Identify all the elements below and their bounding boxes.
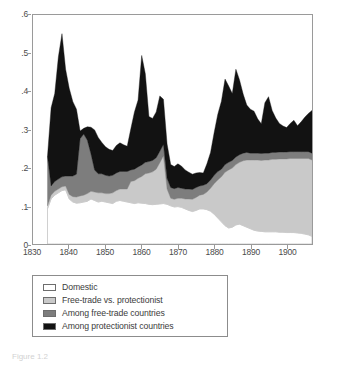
legend-item-among_prot: Among protectionist countries xyxy=(43,320,227,333)
x-tick-label: 1890 xyxy=(242,248,260,257)
legend-swatch-among_free xyxy=(43,310,56,317)
y-tick-mark xyxy=(27,130,31,131)
x-tick-label: 1850 xyxy=(96,248,114,257)
x-tick-label: 1880 xyxy=(205,248,223,257)
y-axis: 0.1.2.3.4.5.6 xyxy=(4,0,28,366)
legend-swatch-free_vs_prot xyxy=(43,297,56,304)
y-tick-label: .3 xyxy=(6,126,28,135)
x-tick-mark xyxy=(68,245,69,249)
legend-swatch-domestic xyxy=(43,284,56,291)
x-axis: 18301840185018601870188018901900 xyxy=(0,248,346,262)
x-tick-mark xyxy=(178,245,179,249)
chart-legend: DomesticFree-trade vs. protectionistAmon… xyxy=(32,275,228,337)
y-tick-mark xyxy=(27,245,31,246)
y-tick-mark xyxy=(27,168,31,169)
figure-container: 0.1.2.3.4.5.6 18301840185018601870188018… xyxy=(0,0,346,366)
y-tick-label: .4 xyxy=(6,87,28,96)
x-tick-label: 1860 xyxy=(132,248,150,257)
y-tick-mark xyxy=(27,91,31,92)
x-tick-label: 1840 xyxy=(59,248,77,257)
y-tick-label: .2 xyxy=(6,164,28,173)
legend-item-among_free: Among free-trade countries xyxy=(43,307,227,320)
legend-swatch-among_prot xyxy=(43,323,56,330)
x-tick-mark xyxy=(141,245,142,249)
y-tick-label: .5 xyxy=(6,49,28,58)
legend-label-free_vs_prot: Free-trade vs. protectionist xyxy=(62,296,163,305)
y-tick-label: .1 xyxy=(6,203,28,212)
y-tick-mark xyxy=(27,53,31,54)
x-tick-mark xyxy=(287,245,288,249)
y-tick-mark xyxy=(27,207,31,208)
x-tick-label: 1900 xyxy=(278,248,296,257)
plot-area xyxy=(32,14,313,245)
x-tick-label: 1830 xyxy=(23,248,41,257)
x-tick-mark xyxy=(214,245,215,249)
legend-label-among_free: Among free-trade countries xyxy=(62,309,165,318)
legend-label-domestic: Domestic xyxy=(62,283,97,292)
x-tick-label: 1870 xyxy=(169,248,187,257)
x-tick-mark xyxy=(105,245,106,249)
x-tick-mark xyxy=(251,245,252,249)
legend-label-among_prot: Among protectionist countries xyxy=(62,322,174,331)
y-tick-label: .6 xyxy=(6,10,28,19)
legend-item-free_vs_prot: Free-trade vs. protectionist xyxy=(43,294,227,307)
legend-item-domestic: Domestic xyxy=(43,281,227,294)
stacked-area-chart xyxy=(33,15,312,244)
figure-caption: Figure 1.2 xyxy=(12,352,48,361)
y-tick-mark xyxy=(27,14,31,15)
